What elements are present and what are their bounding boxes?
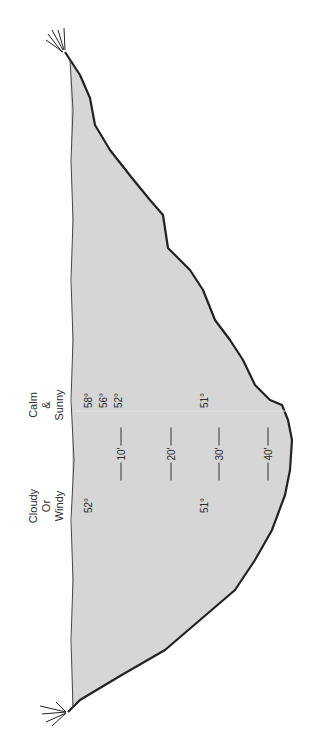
temp-cloudy-surface: 52°	[83, 494, 94, 518]
depth-label: 40'	[263, 445, 274, 462]
depth-tick	[121, 463, 122, 481]
depth-marker-20: 20'	[166, 421, 177, 481]
condition-line: Windy	[53, 476, 66, 536]
depth-marker-10: 10'	[116, 421, 127, 481]
depth-marker-30: 30'	[214, 421, 225, 481]
temp-cloudy-deep: 51°	[199, 494, 210, 518]
depth-tick	[268, 463, 269, 481]
shore-grass-bottom	[40, 702, 66, 726]
depth-tick	[171, 463, 172, 481]
condition-line: Calm	[27, 375, 40, 435]
temp-calm-10ft: 52°	[113, 389, 124, 413]
depth-label: 10'	[116, 445, 127, 462]
lake-water-body	[70, 60, 292, 708]
depth-tick	[171, 427, 172, 445]
temp-calm-surface: 58°	[83, 389, 94, 413]
condition-label-calm: Calm & Sunny	[27, 375, 67, 435]
temp-calm-5ft: 56°	[98, 389, 109, 413]
temp-calm-deep: 51°	[199, 389, 210, 413]
depth-tick	[219, 463, 220, 481]
depth-label: 20'	[166, 445, 177, 462]
depth-tick	[121, 427, 122, 445]
condition-line: Sunny	[53, 375, 66, 435]
depth-marker-40: 40'	[263, 421, 274, 481]
condition-label-cloudy: Cloudy Or Windy	[27, 476, 67, 536]
condition-line: Cloudy	[27, 476, 40, 536]
shore-grass-top	[46, 28, 65, 52]
depth-label: 30'	[214, 445, 225, 462]
depth-tick	[268, 427, 269, 445]
condition-line: &	[40, 375, 53, 435]
depth-tick	[219, 427, 220, 445]
condition-line: Or	[40, 476, 53, 536]
